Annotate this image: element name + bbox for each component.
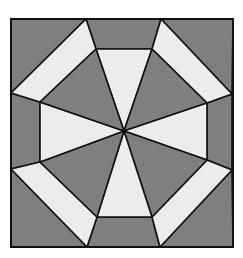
trapezoid-bottom	[87, 217, 160, 247]
trapezoid-top	[86, 19, 161, 49]
quilt-block-diagram	[0, 0, 243, 258]
trapezoid-right	[207, 94, 232, 170]
trapezoid-left	[11, 93, 40, 169]
diagram-svg	[0, 0, 243, 258]
